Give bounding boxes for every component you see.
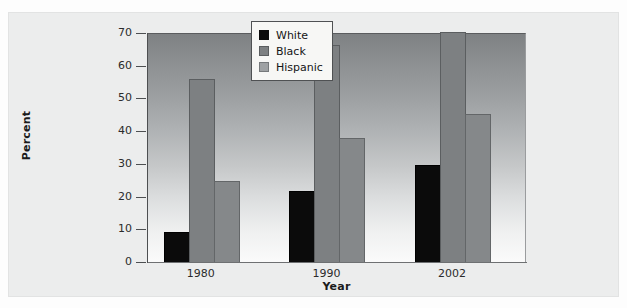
plot-area bbox=[148, 33, 526, 263]
bar-hispanic-1990 bbox=[339, 138, 365, 263]
legend-label: Hispanic bbox=[276, 61, 323, 74]
y-axis-tick-mark bbox=[136, 197, 146, 198]
y-axis-tick-label: 40 bbox=[32, 125, 132, 136]
x-axis-tick-label: 1990 bbox=[286, 267, 366, 280]
y-axis-tick-label: 10 bbox=[32, 223, 132, 234]
legend-swatch-icon bbox=[259, 46, 269, 56]
bar-chart-figure: Percent 010203040506070 198019902002 Yea… bbox=[8, 12, 619, 297]
y-axis-tick-label: 20 bbox=[32, 191, 132, 202]
x-axis-tick-label: 1980 bbox=[161, 267, 241, 280]
x-axis-line bbox=[148, 262, 527, 263]
y-axis-tick-label: 0 bbox=[32, 256, 132, 267]
bar-white-1980 bbox=[164, 232, 190, 263]
legend-label: Black bbox=[276, 45, 306, 58]
legend-item-white[interactable]: White bbox=[259, 27, 323, 43]
y-axis-tick-mark bbox=[136, 262, 146, 263]
y-axis-tick-label: 70 bbox=[32, 27, 132, 38]
legend-swatch-icon bbox=[259, 62, 269, 72]
bar-hispanic-1980 bbox=[214, 181, 240, 263]
bar-white-1990 bbox=[289, 191, 315, 263]
legend-item-hispanic[interactable]: Hispanic bbox=[259, 59, 323, 75]
legend-item-black[interactable]: Black bbox=[259, 43, 323, 59]
legend: WhiteBlackHispanic bbox=[251, 21, 333, 81]
bar-black-1980 bbox=[189, 79, 215, 263]
legend-swatch-icon bbox=[259, 30, 269, 40]
x-axis-title: Year bbox=[148, 280, 525, 293]
x-axis-tick-label: 2002 bbox=[412, 267, 492, 280]
y-axis-tick-label: 30 bbox=[32, 158, 132, 169]
bar-hispanic-2002 bbox=[465, 114, 491, 263]
bar-white-2002 bbox=[415, 165, 441, 264]
y-axis-tick-mark bbox=[136, 164, 146, 165]
y-axis-tick-label: 60 bbox=[32, 60, 132, 71]
y-axis-tick-mark bbox=[136, 98, 146, 99]
y-axis-tick-label: 50 bbox=[32, 92, 132, 103]
y-axis-tick-mark bbox=[136, 66, 146, 67]
y-axis-tick-mark bbox=[136, 131, 146, 132]
y-axis-tick-mark bbox=[136, 229, 146, 230]
y-axis-tick-mark bbox=[136, 33, 146, 34]
chart-page: Percent 010203040506070 198019902002 Yea… bbox=[0, 0, 627, 308]
bar-black-2002 bbox=[440, 32, 466, 263]
legend-label: White bbox=[276, 29, 308, 42]
